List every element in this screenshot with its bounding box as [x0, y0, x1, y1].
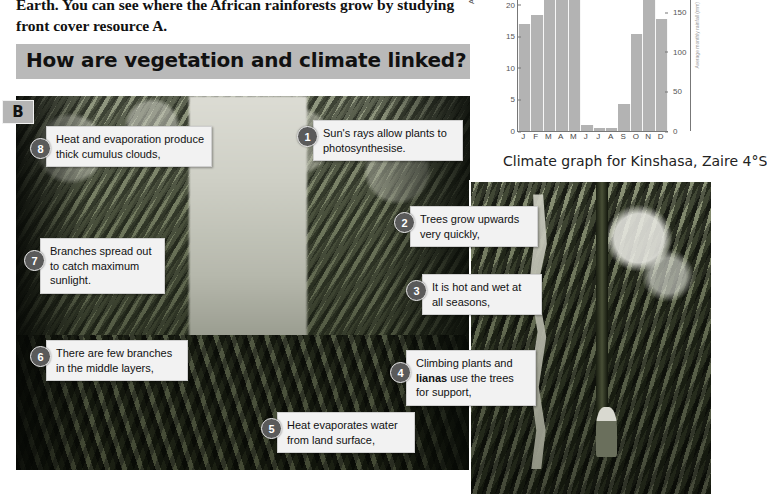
chart-y-tick-right: 100 — [668, 47, 686, 56]
chart-bar — [606, 128, 618, 131]
callout-3: It is hot and wet at all seasons, — [422, 274, 542, 315]
chart-y-tick-right: 150 — [668, 8, 686, 17]
section-heading-bar: How are vegetation and climate linked? — [16, 44, 470, 79]
chart-caption: Climate graph for Kinshasa, Zaire 4°S — [503, 153, 767, 169]
chart-bar — [556, 0, 568, 131]
callout-4-text-before: Climbing plants and — [416, 357, 513, 369]
chart-y-tick-right: 0 — [668, 127, 677, 136]
chart-bar — [581, 125, 593, 131]
chart-y-tick-left: 20 — [506, 0, 518, 9]
callout-7-text: Branches spread out to catch maximum sun… — [50, 245, 152, 286]
chart-plot-area: 05101520 050100150 — [517, 0, 668, 132]
chart-bar — [618, 104, 630, 131]
callout-2: Trees grow upwards very quickly, — [410, 206, 538, 247]
callout-5-bullet: 5 — [261, 418, 282, 439]
chart-bar — [631, 34, 643, 131]
chart-x-tick: J — [517, 132, 530, 141]
chart-y-tick-right: 50 — [668, 87, 682, 96]
callout-4: Climbing plants and lianas use the trees… — [406, 350, 536, 406]
page-title: How are vegetation and climate linked? — [26, 48, 466, 72]
callout-3-bullet: 3 — [406, 280, 427, 301]
chart-bar — [643, 0, 655, 131]
callout-8-text: Heat and evaporation produce thick cumul… — [56, 133, 204, 160]
chart-y-axis-label: Average monthly temperature — [467, 0, 476, 4]
chart-x-tick: A — [605, 132, 618, 141]
person-figure — [596, 407, 618, 457]
chart-x-tick: F — [530, 132, 543, 141]
tree-trunk — [596, 182, 608, 432]
callout-4-bold-term: lianas — [416, 372, 447, 384]
chart-bars — [518, 0, 668, 131]
chart-x-tick: M — [542, 132, 555, 141]
callout-8: Heat and evaporation produce thick cumul… — [46, 126, 212, 167]
chart-bar — [569, 0, 581, 131]
callout-2-text: Trees grow upwards very quickly, — [420, 213, 519, 240]
chart-x-tick: S — [617, 132, 630, 141]
chart-x-tick: M — [567, 132, 580, 141]
resource-label-b: B — [2, 100, 34, 124]
chart-y-tick-left: 15 — [506, 32, 518, 41]
callout-2-bullet: 2 — [394, 212, 415, 233]
callout-7-bullet: 7 — [24, 250, 45, 271]
chart-x-tick: A — [555, 132, 568, 141]
callout-7: Branches spread out to catch maximum sun… — [40, 238, 165, 294]
chart-x-tick: D — [655, 132, 668, 141]
chart-x-tick: N — [642, 132, 655, 141]
intro-paragraph: Earth. You can see where the African rai… — [16, 0, 476, 36]
callout-1-text: Sun's rays allow plants to photosynthesi… — [323, 127, 447, 154]
callout-6: There are few branches in the middle lay… — [46, 340, 188, 381]
callout-4-bullet: 4 — [390, 362, 411, 383]
chart-bar — [531, 15, 543, 131]
climate-chart: Average monthly temperature 05101520 050… — [495, 0, 695, 151]
callout-6-bullet: 6 — [30, 346, 51, 367]
chart-bar — [518, 24, 531, 131]
callout-8-bullet: 8 — [30, 138, 51, 159]
callout-1-bullet: 1 — [297, 126, 318, 147]
chart-right-axis — [690, 0, 691, 131]
chart-bar — [544, 0, 556, 131]
callout-5: Heat evaporates water from land surface, — [277, 412, 415, 453]
chart-y-tick-left: 10 — [506, 63, 518, 72]
callout-3-text: It is hot and wet at all seasons, — [432, 281, 521, 308]
chart-y-tick-left: 5 — [511, 95, 518, 104]
callout-6-text: There are few branches in the middle lay… — [56, 347, 172, 374]
chart-bar — [594, 128, 606, 131]
callout-1: Sun's rays allow plants to photosynthesi… — [313, 120, 463, 161]
chart-x-tick: J — [580, 132, 593, 141]
chart-x-ticks: JFMAMJJASOND — [517, 132, 667, 141]
chart-edge-marginalia: Average monthly rainfall (mm) — [694, 2, 700, 69]
callout-5-text: Heat evaporates water from land surface, — [287, 419, 398, 446]
chart-x-tick: J — [592, 132, 605, 141]
chart-x-tick: O — [630, 132, 643, 141]
chart-bar — [656, 19, 668, 132]
